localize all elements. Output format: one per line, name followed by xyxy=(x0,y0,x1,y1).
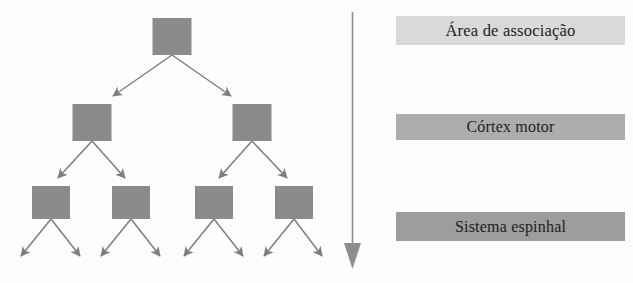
tree-node-level3-1 xyxy=(32,186,70,219)
tree-node-level3-4 xyxy=(275,186,313,219)
tree-node-level2-2 xyxy=(233,104,272,141)
level-label-text: Córtex motor xyxy=(466,118,554,136)
level-label-text: Área de associação xyxy=(445,20,575,40)
tree-node-level3-2 xyxy=(112,186,150,219)
level-label-text: Sistema espinhal xyxy=(455,217,566,235)
tree-edge-group-level3 xyxy=(21,219,322,256)
tree-node-level3-3 xyxy=(195,186,233,219)
level-label-motor-cortex: Córtex motor xyxy=(396,114,625,140)
tree-edge-group-level1 xyxy=(113,55,231,96)
level-label-association-area: Área de associação xyxy=(396,16,625,45)
tree-edge-group-level2 xyxy=(58,141,287,178)
tree-node-level2-1 xyxy=(73,104,112,141)
downward-flow-arrow xyxy=(334,0,374,283)
level-label-spinal-system: Sistema espinhal xyxy=(396,212,625,241)
hierarchy-tree xyxy=(0,0,330,283)
diagram-canvas: Área de associação Córtex motor Sistema … xyxy=(0,0,633,283)
tree-node-level1-1 xyxy=(153,18,192,55)
